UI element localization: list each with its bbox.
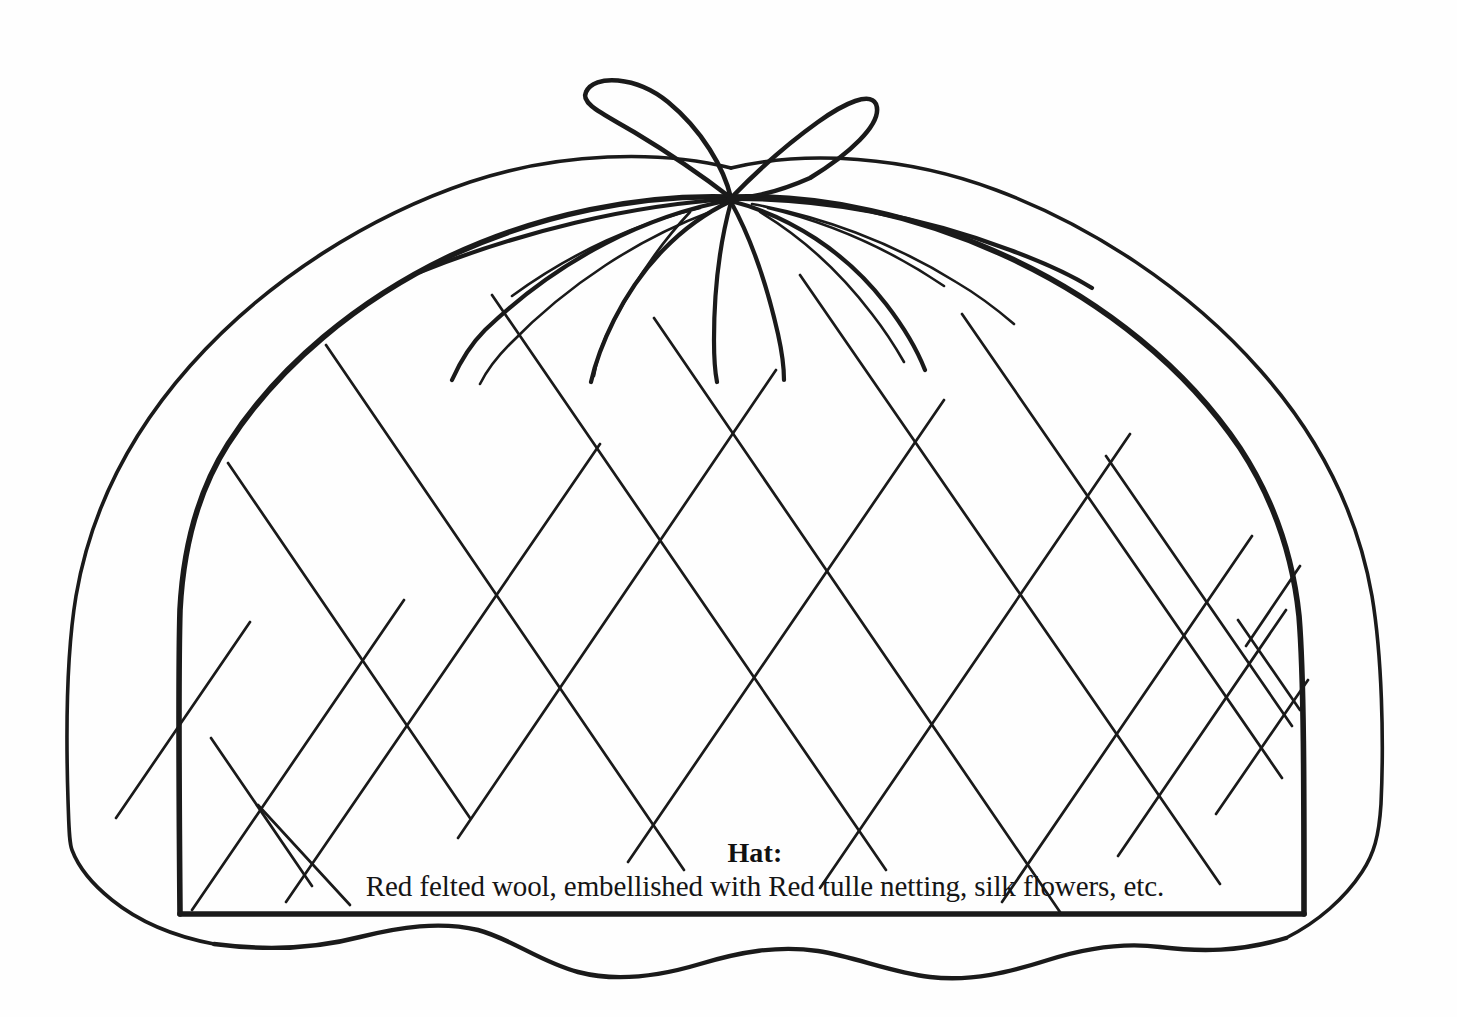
lattice-line-bs-10: [258, 805, 350, 905]
outer-dome-outline: [67, 156, 731, 944]
lattice-line-bs-9: [211, 738, 312, 886]
bow-loop-right: [731, 99, 877, 198]
bow-knot: [727, 195, 735, 203]
outer-outline-group: [67, 156, 1382, 944]
lattice-line-sl-1: [116, 622, 250, 818]
hat-line-drawing: [0, 0, 1457, 1017]
lattice-group-backslash: [211, 275, 1300, 912]
lattice-line-bs-4: [654, 318, 1060, 912]
bow-group: [585, 80, 877, 203]
lattice-line-bs-3: [492, 295, 886, 870]
scalloped-hem: [214, 926, 1286, 979]
lattice-line-bs-5: [800, 275, 1220, 884]
lattice-line-sl-6: [820, 434, 1130, 888]
scalloped-hem-group: [214, 926, 1286, 979]
inner-outline-group: [179, 197, 1304, 914]
gather-line-4: [714, 202, 731, 382]
lattice-line-sl-3: [286, 444, 600, 902]
lattice-line-sl-5: [628, 400, 944, 862]
lattice-line-bs-6: [962, 314, 1282, 778]
gather-line-5: [731, 202, 784, 380]
lattice-line-bs-2: [326, 345, 684, 870]
lattice-line-sl-10: [1246, 566, 1300, 646]
bow-loop-left: [585, 80, 731, 198]
lattice-line-bs-1: [228, 463, 470, 818]
lattice-line-sl-4: [458, 370, 776, 838]
illustration-canvas: Hat: Red felted wool, embellished with R…: [0, 0, 1457, 1017]
lattice-group-slash: [116, 370, 1308, 910]
lattice-line-sl-7: [1002, 536, 1252, 902]
lattice-line-sl-8: [1118, 610, 1286, 856]
gather-line-3: [591, 201, 731, 382]
gather-tick-right-1: [760, 212, 904, 362]
